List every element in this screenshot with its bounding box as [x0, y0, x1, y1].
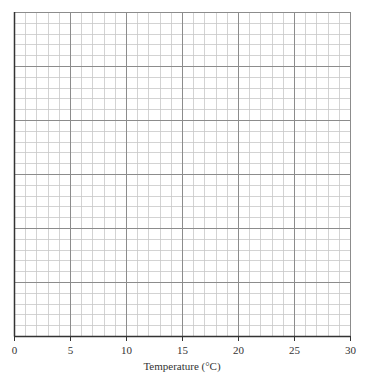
x-axis-ticks: 051015202530: [12, 336, 357, 356]
x-tick-label: 5: [68, 344, 74, 356]
x-tick-label: 30: [345, 344, 357, 356]
x-tick-label: 20: [233, 344, 245, 356]
x-tick-label: 10: [121, 344, 133, 356]
chart-canvas: 051015202530 Temperature (°C): [0, 0, 369, 386]
x-tick-label: 15: [177, 344, 189, 356]
major-grid: [14, 12, 351, 337]
x-axis-title: Temperature (°C): [143, 360, 221, 373]
x-tick-label: 25: [289, 344, 301, 356]
x-tick-label: 0: [12, 344, 18, 356]
